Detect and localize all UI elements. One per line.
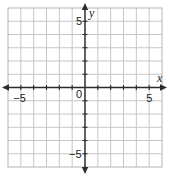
coordinate-plane: x y 0 −5 5 5 −5	[0, 0, 170, 177]
y-tick-label-neg5: −5	[69, 148, 82, 160]
x-axis-left-arrow-icon	[2, 84, 9, 90]
origin-label: 0	[76, 88, 82, 100]
y-axis-down-arrow-icon	[82, 167, 88, 174]
x-tick-label-neg5: −5	[13, 92, 26, 104]
y-tick-label-5: 5	[76, 15, 82, 27]
x-axis-label: x	[156, 71, 163, 85]
y-axis-up-arrow-icon	[82, 3, 88, 10]
x-tick-label-5: 5	[146, 92, 152, 104]
x-axis-right-arrow-icon	[160, 84, 167, 90]
y-axis-label: y	[88, 6, 95, 20]
